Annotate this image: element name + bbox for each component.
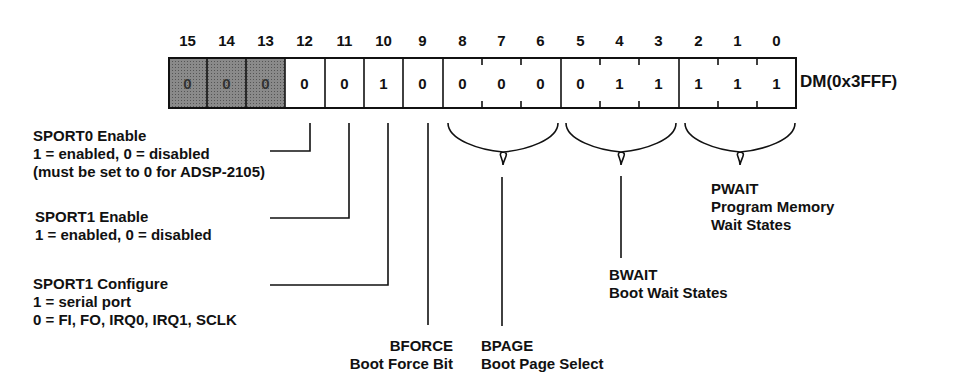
bwait-title: BWAIT bbox=[609, 266, 728, 284]
bforce-title: BFORCE bbox=[328, 337, 453, 355]
sport0-line2: (must be set to 0 for ADSP-2105) bbox=[33, 163, 265, 181]
pwait-label: PWAIT Program Memory Wait States bbox=[711, 180, 834, 234]
sport0-line1: 1 = enabled, 0 = disabled bbox=[33, 145, 265, 163]
bpage-desc: Boot Page Select bbox=[481, 355, 604, 373]
pwait-line2: Wait States bbox=[711, 216, 834, 234]
pwait-line1: Program Memory bbox=[711, 198, 834, 216]
sport1-configure-label: SPORT1 Configure 1 = serial port 0 = FI,… bbox=[33, 275, 237, 329]
bpage-label: BPAGE Boot Page Select bbox=[481, 337, 604, 373]
sport0-enable-label: SPORT0 Enable 1 = enabled, 0 = disabled … bbox=[33, 127, 265, 181]
sport1-enable-title: SPORT1 Enable bbox=[35, 208, 212, 226]
sport1-enable-label: SPORT1 Enable 1 = enabled, 0 = disabled bbox=[35, 208, 212, 244]
sport1-enable-line1: 1 = enabled, 0 = disabled bbox=[35, 226, 212, 244]
sport1-config-line1: 1 = serial port bbox=[33, 293, 237, 311]
pwait-title: PWAIT bbox=[711, 180, 834, 198]
bforce-desc: Boot Force Bit bbox=[328, 355, 453, 373]
bpage-title: BPAGE bbox=[481, 337, 604, 355]
sport1-config-title: SPORT1 Configure bbox=[33, 275, 237, 293]
register-address-label: DM(0x3FFF) bbox=[800, 73, 897, 91]
bwait-desc: Boot Wait States bbox=[609, 284, 728, 302]
bwait-label: BWAIT Boot Wait States bbox=[609, 266, 728, 302]
sport0-title: SPORT0 Enable bbox=[33, 127, 265, 145]
sport1-config-line2: 0 = FI, FO, IRQ0, IRQ1, SCLK bbox=[33, 311, 237, 329]
bforce-label: BFORCE Boot Force Bit bbox=[328, 337, 453, 373]
